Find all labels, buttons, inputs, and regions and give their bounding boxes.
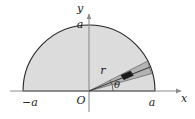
geometry-figure: y x a O −a a r θ: [0, 0, 195, 119]
x-intercept-negative-label: −a: [22, 96, 38, 109]
polar-angle-label: θ: [114, 79, 120, 90]
y-intercept-label: a: [77, 18, 84, 31]
y-axis-label: y: [76, 2, 84, 15]
diagram-canvas: y x a O −a a r θ: [0, 0, 195, 119]
origin-label: O: [76, 94, 85, 107]
x-axis-label: x: [181, 92, 188, 105]
radial-distance-label: r: [100, 64, 106, 77]
x-intercept-positive-label: a: [149, 96, 156, 109]
